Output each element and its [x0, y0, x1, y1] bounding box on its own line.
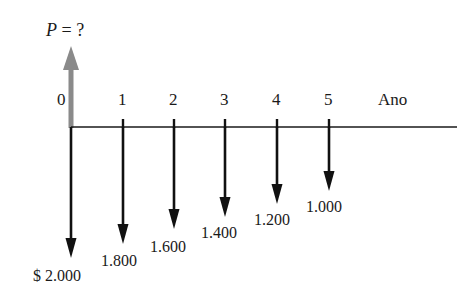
- present-value-equals: = ?: [57, 20, 84, 40]
- outflow-arrow-5-icon: [324, 127, 335, 191]
- period-label-0: 0: [57, 90, 66, 109]
- present-value-label: P = ?: [45, 20, 84, 40]
- present-value-arrow-icon: [63, 46, 79, 128]
- outflow-arrow-1-icon: [118, 127, 129, 244]
- period-label-1: 1: [118, 90, 127, 109]
- present-value-variable: P: [45, 20, 57, 40]
- axis-unit-label: Ano: [378, 90, 407, 109]
- outflow-arrow-2-icon: [169, 127, 180, 229]
- period-label-3: 3: [220, 90, 229, 109]
- period-label-2: 2: [169, 90, 178, 109]
- period-label-5: 5: [324, 90, 333, 109]
- outflow-arrow-4-icon: [272, 127, 283, 204]
- outflow-arrow-3-icon: [220, 127, 231, 217]
- cash-flow-diagram: P = ? 0 1 2 3 4 5 Ano: [0, 0, 474, 302]
- amount-label-3: 1.400: [201, 224, 237, 241]
- period-label-4: 4: [272, 90, 281, 109]
- amount-label-2: 1.600: [150, 238, 186, 255]
- outflow-arrow-0-icon: [66, 127, 77, 258]
- amount-label-5: 1.000: [306, 198, 342, 215]
- amount-label-0: $ 2.000: [33, 267, 81, 284]
- amount-label-4: 1.200: [254, 211, 290, 228]
- amount-label-1: 1.800: [101, 252, 137, 269]
